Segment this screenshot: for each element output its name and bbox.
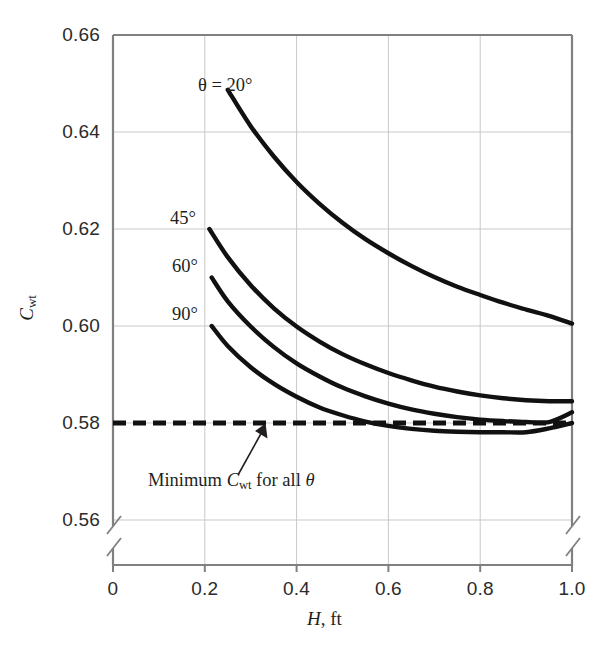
ytick-label-0.60: 0.60: [38, 315, 100, 337]
annotation-symbol-subscript: wt: [239, 478, 252, 492]
ytick-label-0.58: 0.58: [38, 412, 100, 434]
curve-theta-20: [228, 90, 572, 324]
annotation-theta: θ: [305, 470, 314, 490]
annotation-symbol: C: [227, 470, 239, 490]
xtick-label-0: 0: [83, 578, 143, 600]
arrowhead: [257, 425, 267, 437]
xtick-label-0.6: 0.6: [358, 578, 418, 600]
y-axis-title: Cwt: [16, 286, 40, 330]
minimum-cwt-annotation: Minimum Cwt for all θ: [148, 470, 315, 493]
leader-line: [238, 430, 263, 475]
x-axis-title-units: , ft: [321, 608, 342, 629]
annotation-prefix: Minimum: [148, 470, 227, 490]
curve-label-theta-20: θ = 20°: [198, 75, 252, 96]
xtick-label-0.4: 0.4: [267, 578, 327, 600]
ytick-label-0.64: 0.64: [38, 121, 100, 143]
xtick-label-0.8: 0.8: [450, 578, 510, 600]
ytick-label-0.66: 0.66: [38, 24, 100, 46]
chart-figure: 0.66 0.64 0.62 0.60 0.58 0.56 0 0.2 0.4 …: [0, 0, 610, 646]
x-axis-title-symbol: H: [307, 608, 321, 629]
annotation-leader-arrow: [238, 425, 267, 475]
x-axis-title: H, ft: [307, 608, 342, 630]
annotation-suffix: for all: [251, 470, 305, 490]
curve-label-theta-60: 60°: [172, 256, 198, 277]
ytick-label-0.56: 0.56: [38, 509, 100, 531]
y-axis-title-symbol: C: [16, 308, 37, 321]
ytick-label-0.62: 0.62: [38, 218, 100, 240]
grid-horizontal: [113, 132, 572, 520]
xtick-label-0.2: 0.2: [175, 578, 235, 600]
data-curves: [209, 90, 572, 433]
y-axis-title-subscript: wt: [24, 295, 39, 308]
curve-label-theta-45: 45°: [170, 208, 196, 229]
xtick-label-1.0: 1.0: [542, 578, 602, 600]
axis-break-marks: [107, 516, 580, 556]
curve-label-theta-90: 90°: [172, 304, 198, 325]
